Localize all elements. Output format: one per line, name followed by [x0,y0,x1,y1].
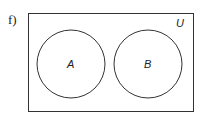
set-b-label: B [144,58,151,70]
universe-rectangle [29,14,194,112]
venn-diagram: U A B [0,0,197,115]
set-a-label: A [66,58,74,70]
universe-label: U [176,17,184,29]
